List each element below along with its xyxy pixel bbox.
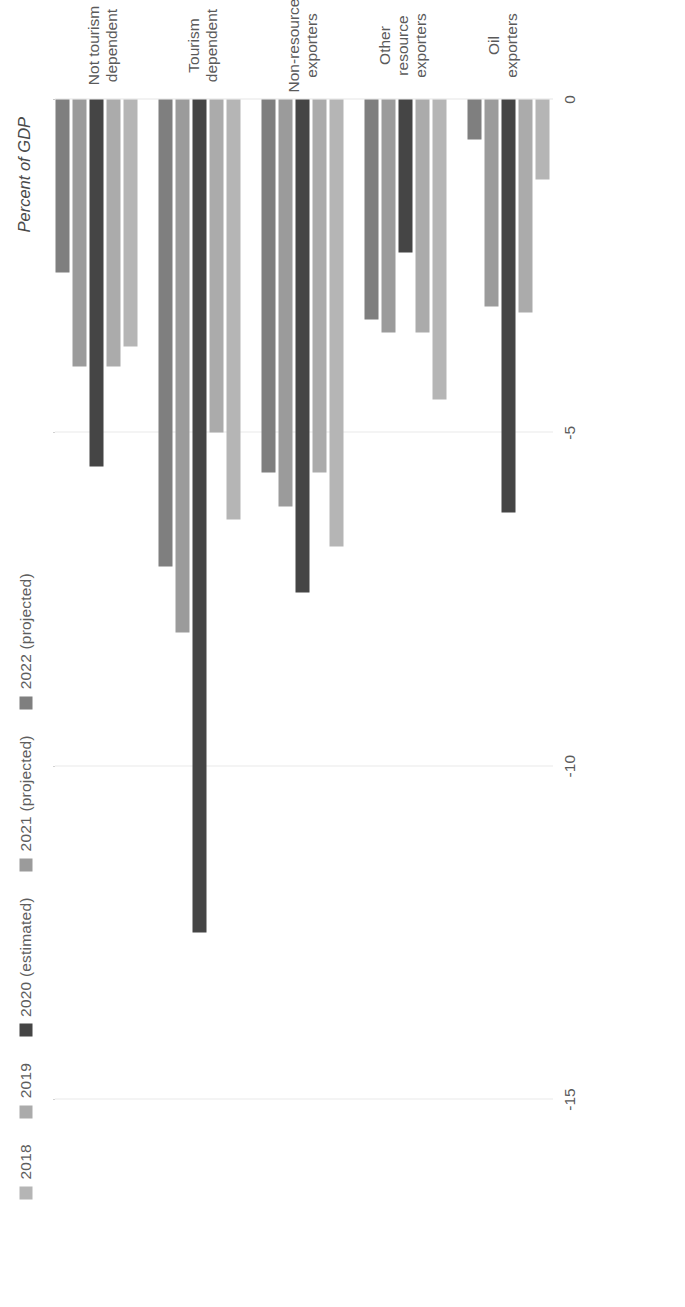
bar-row [415,99,429,1199]
bar-row [106,99,120,1199]
category-label: Non-resource exporters [284,0,320,95]
bar-row [89,99,103,1199]
bar-row [175,99,189,1199]
bar-group [52,99,140,1199]
bar-groups [52,99,552,1199]
bar-row [209,99,223,1199]
bar-row [226,99,240,1199]
bar-row [192,99,206,1199]
bar[interactable] [106,99,120,366]
category-label: Oil exporters [484,0,520,95]
category-label: Other resource exporters [375,0,428,95]
bar-group [361,99,449,1199]
category-label: Tourism dependent [184,0,220,95]
bar-group [258,99,346,1199]
chart-figure-rotator: 201820192020 (estimated)2021 (projected)… [0,0,685,1307]
bar-row [381,99,395,1199]
legend-label: 2020 (estimated) [16,897,34,1017]
legend-item-2018[interactable]: 2018 [16,1144,34,1199]
axis-title-percent-of-gdp: Percent of GDP [14,116,33,232]
bar[interactable] [55,99,69,272]
bar-chart-figure: 201820192020 (estimated)2021 (projected)… [0,0,685,1307]
bar[interactable] [89,99,103,466]
bar-row [329,99,343,1199]
value-tick-label--10: -10 [560,754,578,776]
bar[interactable] [381,99,395,332]
bar-group [464,99,552,1199]
bar[interactable] [209,99,223,432]
value-axis-labels: 0-5-10-15 [560,99,590,1199]
bar[interactable] [364,99,378,319]
bar[interactable] [329,99,343,546]
bar[interactable] [398,99,412,252]
bar-row [518,99,532,1199]
bar[interactable] [432,99,446,399]
bar-row [312,99,326,1199]
legend-swatch-icon [19,696,32,709]
bar-row [158,99,172,1199]
bar[interactable] [278,99,292,506]
bar[interactable] [484,99,498,306]
value-tick-label--5: -5 [560,425,578,439]
bar[interactable] [518,99,532,312]
bar-row [484,99,498,1199]
legend-label: 2018 [16,1144,34,1179]
plot-area [52,99,552,1199]
bar[interactable] [467,99,481,139]
bar-row [467,99,481,1199]
legend-item-2019[interactable]: 2019 [16,1062,34,1117]
value-tick-label--15: -15 [560,1088,578,1110]
bar[interactable] [158,99,172,566]
bar-row [55,99,69,1199]
bar[interactable] [295,99,309,592]
bar[interactable] [312,99,326,472]
legend-swatch-icon [19,1023,32,1036]
bar[interactable] [415,99,429,332]
value-tick-label-0: 0 [560,95,578,104]
legend-label: 2022 (projected) [16,573,34,689]
bar[interactable] [123,99,137,346]
bar-row [278,99,292,1199]
bar[interactable] [535,99,549,179]
legend-item-2021-projected-[interactable]: 2021 (projected) [16,735,34,871]
bar-row [535,99,549,1199]
legend-swatch-icon [19,1105,32,1118]
bar[interactable] [501,99,515,512]
bar-row [72,99,86,1199]
bar-row [501,99,515,1199]
bar[interactable] [192,99,206,932]
bar-row [261,99,275,1199]
legend-swatch-icon [19,1186,32,1199]
bar[interactable] [72,99,86,366]
bar[interactable] [175,99,189,632]
bar-row [364,99,378,1199]
legend-item-2020-estimated-[interactable]: 2020 (estimated) [16,897,34,1037]
bar-row [398,99,412,1199]
legend-label: 2021 (projected) [16,735,34,851]
chart-legend: 201820192020 (estimated)2021 (projected)… [10,573,40,1199]
bar-row [295,99,309,1199]
legend-item-2022-projected-[interactable]: 2022 (projected) [16,573,34,709]
bar-row [432,99,446,1199]
bar[interactable] [226,99,240,519]
bar[interactable] [261,99,275,472]
legend-swatch-icon [19,858,32,871]
category-label: Not tourism dependent [84,0,120,95]
bar-row [123,99,137,1199]
bar-group [155,99,243,1199]
legend-label: 2019 [16,1062,34,1097]
